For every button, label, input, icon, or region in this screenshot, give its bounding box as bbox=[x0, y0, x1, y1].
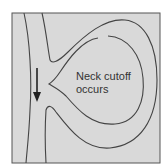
cutoff-label-line2: occurs bbox=[76, 83, 109, 95]
neck-cutoff-diagram: Neck cutoff occurs bbox=[0, 0, 167, 167]
diagram-canvas: Neck cutoff occurs bbox=[0, 0, 167, 167]
cutoff-label-line1: Neck cutoff bbox=[76, 70, 132, 82]
